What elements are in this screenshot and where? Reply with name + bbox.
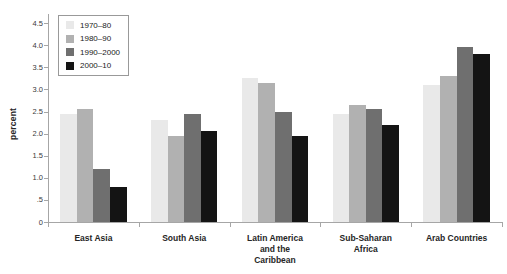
- category-label: East Asia: [48, 233, 139, 244]
- bar: [93, 169, 110, 222]
- bar: [382, 125, 399, 222]
- y-tick: [44, 67, 48, 68]
- legend-swatch-icon: [66, 62, 74, 70]
- legend-swatch-icon: [66, 48, 74, 56]
- y-tick-label: 4.5: [16, 19, 43, 28]
- y-tick: [44, 112, 48, 113]
- legend-item: 1970–80: [66, 21, 128, 30]
- bar: [366, 109, 383, 222]
- legend-item: 2000–10: [66, 61, 128, 70]
- category-label-line: Arab Countries: [411, 233, 502, 244]
- y-tick-label: 2.0: [16, 129, 43, 138]
- bar: [151, 120, 168, 222]
- bar: [473, 54, 490, 222]
- legend-item: 1990–2000: [66, 48, 128, 57]
- y-tick-label: .5: [16, 195, 43, 204]
- legend-label: 2000–10: [80, 61, 111, 70]
- category-label-line: and the: [230, 244, 321, 255]
- category-label-line: Sub-Saharan: [320, 233, 411, 244]
- bar: [184, 114, 201, 222]
- y-tick: [44, 23, 48, 24]
- y-tick-label: 3.0: [16, 85, 43, 94]
- y-tick: [44, 89, 48, 90]
- legend-swatch-icon: [66, 35, 74, 43]
- legend-label: 1990–2000: [80, 48, 120, 57]
- bar: [423, 85, 440, 222]
- category-label: South Asia: [139, 233, 230, 244]
- legend-label: 1970–80: [80, 21, 111, 30]
- legend-swatch-icon: [66, 21, 74, 29]
- y-tick: [44, 134, 48, 135]
- bar: [292, 136, 309, 222]
- y-tick: [44, 178, 48, 179]
- legend: 1970–801980–901990–20002000–10: [58, 15, 129, 76]
- bar: [242, 78, 259, 222]
- legend-label: 1980–90: [80, 34, 111, 43]
- category-label: Sub-SaharanAfrica: [320, 233, 411, 255]
- y-tick-label: 4.0: [16, 41, 43, 50]
- category-label: Arab Countries: [411, 233, 502, 244]
- x-tick: [411, 223, 412, 227]
- category-label-line: Caribbean: [230, 255, 321, 266]
- bar: [275, 112, 292, 223]
- category-label-line: Latin America: [230, 233, 321, 244]
- bar: [440, 76, 457, 222]
- category-label-line: East Asia: [48, 233, 139, 244]
- y-tick-label: 0: [16, 218, 43, 227]
- x-tick: [230, 223, 231, 227]
- category-label: Latin Americaand theCaribbean: [230, 233, 321, 266]
- bar: [110, 187, 127, 222]
- legend-item: 1980–90: [66, 34, 128, 43]
- x-tick: [320, 223, 321, 227]
- x-tick: [502, 223, 503, 227]
- y-tick-label: 3.5: [16, 63, 43, 72]
- y-tick-label: 2.5: [16, 107, 43, 116]
- bar: [349, 105, 366, 222]
- x-axis-line: [48, 222, 503, 223]
- y-tick-label: 1.0: [16, 173, 43, 182]
- y-tick: [44, 156, 48, 157]
- y-tick: [44, 200, 48, 201]
- bar: [258, 83, 275, 222]
- x-tick: [139, 223, 140, 227]
- bar: [168, 136, 185, 222]
- y-tick-label: 1.5: [16, 151, 43, 160]
- x-tick: [48, 223, 49, 227]
- bar: [457, 47, 474, 222]
- y-tick: [44, 45, 48, 46]
- bar: [333, 114, 350, 222]
- category-label-line: Africa: [320, 244, 411, 255]
- bar: [201, 131, 218, 222]
- bar: [60, 114, 77, 222]
- y-axis-line: [48, 14, 49, 223]
- bar-chart-figure: percent 0.51.01.52.02.53.03.54.04.5East …: [0, 0, 507, 274]
- category-label-line: South Asia: [139, 233, 230, 244]
- bar: [77, 109, 94, 222]
